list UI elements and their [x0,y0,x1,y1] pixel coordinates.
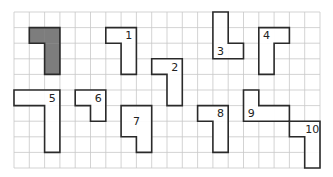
piece-10: 10 [289,121,320,168]
piece-cell [167,90,183,106]
piece-9: 9 [244,90,290,122]
piece-cell [213,28,229,44]
puzzle-diagram: 12345678910 [0,0,333,177]
piece-number-label: 4 [263,29,270,42]
piece-cell [121,59,137,75]
piece-shaded-reference [29,28,60,75]
piece-cell [45,137,61,153]
piece-cell [259,59,275,75]
piece-3: 3 [213,12,244,59]
piece-cell [106,28,122,44]
piece-cell [259,43,275,59]
piece-number-label: 8 [217,107,224,120]
piece-cell [91,106,107,122]
piece-number-label: 7 [133,115,140,128]
piece-2: 2 [152,59,183,106]
piece-8: 8 [198,106,229,153]
piece-cell [45,106,61,122]
piece-cell [45,121,61,137]
piece-1: 1 [106,28,137,75]
piece-cell [244,90,260,106]
piece-number-label: 9 [248,107,255,120]
piece-cell [198,106,214,122]
piece-4: 4 [259,28,290,75]
piece-cell [228,43,244,59]
piece-cell [75,90,91,106]
piece-number-label: 2 [171,61,178,74]
piece-7: 7 [121,106,152,153]
piece-cell [121,43,137,59]
piece-cell [274,28,290,44]
piece-number-label: 5 [49,92,56,105]
piece-number-label: 6 [95,92,102,105]
piece-cell [213,121,229,137]
piece-cell [45,43,61,59]
piece-cell [29,90,45,106]
piece-cell [152,59,168,75]
piece-cell [305,137,321,153]
piece-cell [213,137,229,153]
piece-cell [289,121,305,137]
piece-cell [45,59,61,75]
piece-number-label: 10 [305,123,319,136]
piece-cell [29,28,45,44]
piece-cell [167,74,183,90]
piece-number-label: 1 [125,29,132,42]
piece-cell [136,137,152,153]
piece-cell [259,106,275,122]
piece-cell [213,12,229,28]
piece-cell [305,152,321,168]
piece-cell [274,106,290,122]
piece-6: 6 [75,90,106,122]
piece-cell [45,28,61,44]
grid-board: 12345678910 [0,0,333,177]
piece-cell [14,90,30,106]
piece-number-label: 3 [217,45,224,58]
